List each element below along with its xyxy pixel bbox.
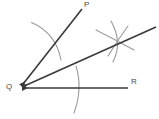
arc-near-vertex-lower-icon — [74, 66, 79, 113]
geometry-figure: P Q R — [0, 0, 159, 119]
construction-arcs — [32, 21, 135, 113]
vertex-label-q: Q — [6, 83, 12, 91]
vertex-label-p: P — [84, 1, 89, 9]
geometry-canvas — [0, 0, 159, 119]
vertex-label-r: R — [131, 78, 137, 86]
